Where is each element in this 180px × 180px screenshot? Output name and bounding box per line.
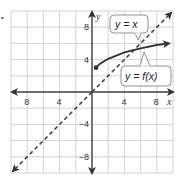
- y-tick-label: −8: [79, 152, 89, 162]
- x-tick-label: 4: [121, 97, 126, 107]
- question-bullet: •: [1, 13, 4, 22]
- coordinate-graph: • x y 8448 84−4−8 y = x y = f(x): [0, 0, 180, 180]
- y-tick-label: −4: [79, 119, 89, 129]
- y-axis-label: y: [95, 11, 101, 22]
- callout-identity-text: y = x: [114, 18, 138, 30]
- x-tick-label: 8: [24, 97, 29, 107]
- x-axis-label: x: [166, 96, 172, 107]
- x-tick-label: 4: [57, 97, 62, 107]
- callout-function-text: y = f(x): [124, 70, 157, 82]
- callout-function: y = f(x): [121, 52, 171, 86]
- y-tick-label: 4: [84, 55, 89, 65]
- y-tick-label: 8: [84, 22, 89, 32]
- callout-identity: y = x: [110, 15, 148, 40]
- function-curve: [96, 43, 169, 67]
- x-tick-label: 8: [154, 97, 159, 107]
- curve-start-point: [94, 65, 99, 70]
